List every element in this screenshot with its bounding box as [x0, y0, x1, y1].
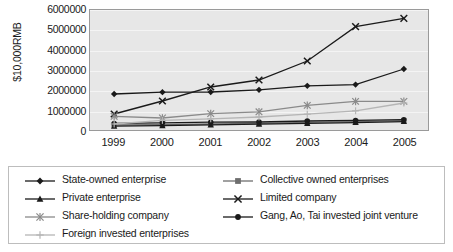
x-tick-label: 2002 — [247, 136, 271, 148]
legend-item[interactable]: Collective owned enterprises — [221, 173, 389, 185]
legend-item[interactable]: Private enterprise — [23, 191, 141, 203]
y-tick-label: 6000000 — [47, 4, 86, 14]
data-point-marker — [401, 66, 407, 72]
x-tick-label: 2001 — [199, 136, 223, 148]
x-tick-label: 2003 — [296, 136, 320, 148]
x-axis-tick-labels: 1999200020012002200320042005 — [89, 136, 429, 154]
series-line — [114, 18, 404, 114]
legend-marker-icon — [23, 227, 57, 239]
y-axis-tick-labels: 6000000500000040000003000000200000010000… — [14, 0, 86, 140]
legend-label: Limited company — [260, 191, 336, 203]
data-point-marker — [400, 100, 407, 107]
x-tick-label: 2004 — [344, 136, 368, 148]
legend-label: Collective owned enterprises — [260, 173, 389, 185]
legend-label: Share-holding company — [62, 209, 169, 221]
legend-item[interactable]: Foreign invested enterprises — [23, 227, 189, 239]
chart-page: $10,000RMB 60000005000000400000030000002… — [0, 0, 453, 252]
y-tick-label: 1000000 — [47, 106, 86, 116]
plot-area — [89, 9, 429, 131]
line-chart: $10,000RMB 60000005000000400000030000002… — [0, 0, 453, 158]
data-point-marker — [111, 91, 117, 97]
x-tick-label: 1999 — [101, 136, 125, 148]
legend-marker-icon — [23, 191, 57, 203]
data-point-marker — [401, 117, 406, 122]
legend-label: Private enterprise — [62, 191, 141, 203]
legend-label: State-owned enterprise — [62, 173, 166, 185]
data-point-marker — [353, 118, 358, 123]
x-tick-label: 2005 — [393, 136, 417, 148]
legend-marker-icon — [221, 191, 255, 203]
legend-item[interactable]: Limited company — [221, 191, 336, 203]
series-canvas — [90, 10, 428, 130]
legend-label: Foreign invested enterprises — [62, 227, 189, 239]
legend-marker-icon — [23, 173, 57, 185]
legend-item[interactable]: Gang, Ao, Tai invested joint venture — [221, 209, 418, 221]
series-state-owned-enterprise — [111, 66, 407, 97]
y-tick-label: 3000000 — [47, 65, 86, 75]
legend-item[interactable]: State-owned enterprise — [23, 173, 166, 185]
legend-marker-icon — [221, 173, 255, 185]
data-point-marker — [256, 87, 262, 93]
legend-item[interactable]: Share-holding company — [23, 209, 169, 221]
data-point-marker — [352, 107, 359, 114]
chart-legend: State-owned enterprisePrivate enterprise… — [8, 166, 445, 244]
legend-label: Gang, Ao, Tai invested joint venture — [260, 209, 418, 221]
data-point-marker — [304, 83, 310, 89]
data-point-marker — [159, 89, 165, 95]
y-tick-label: 0 — [80, 126, 86, 136]
data-point-marker — [352, 81, 358, 87]
y-tick-label: 4000000 — [47, 45, 86, 55]
data-point-marker — [305, 118, 310, 123]
legend-marker-icon — [23, 209, 57, 221]
y-tick-label: 2000000 — [47, 85, 86, 95]
legend-marker-icon — [221, 209, 255, 221]
data-point-marker — [304, 58, 311, 65]
x-tick-label: 2000 — [150, 136, 174, 148]
data-point-marker — [304, 111, 311, 118]
y-tick-label: 5000000 — [47, 24, 86, 34]
